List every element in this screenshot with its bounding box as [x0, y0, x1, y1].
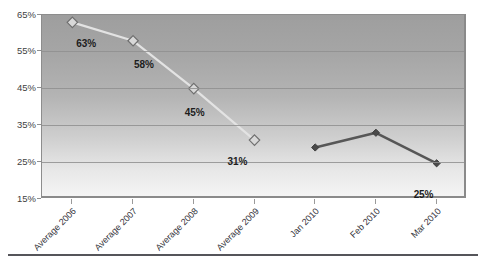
- y-tick-label: 25%: [0, 156, 36, 167]
- data-point-label: 45%: [185, 107, 205, 118]
- series-line: [72, 22, 254, 140]
- chart-container: 65% 55% 45% 35% 25% 15% Average 2006Aver…: [0, 0, 485, 264]
- y-tick-label: 65%: [0, 9, 36, 20]
- y-tick-label: 55%: [0, 45, 36, 56]
- y-tick-label: 35%: [0, 119, 36, 130]
- y-tick-label: 45%: [0, 82, 36, 93]
- gridline-35: [42, 125, 464, 126]
- y-tick-label: 15%: [0, 193, 36, 204]
- plot-area: [41, 14, 466, 198]
- gridline-25: [42, 162, 464, 163]
- data-point-label: 31%: [228, 156, 248, 167]
- x-tick-mark: [436, 199, 437, 204]
- data-point-label: 58%: [134, 59, 154, 70]
- gridline-55: [42, 51, 464, 52]
- x-tick-mark: [193, 199, 194, 204]
- bottom-rule-divider: [8, 254, 478, 256]
- data-point-marker: [312, 144, 319, 151]
- series-layer: [42, 15, 466, 198]
- x-tick-mark: [254, 199, 255, 204]
- x-tick-mark: [375, 199, 376, 204]
- data-point-label: 25%: [414, 189, 434, 200]
- y-tick-mark: [37, 198, 41, 199]
- x-tick-mark: [132, 199, 133, 204]
- x-tick-mark: [314, 199, 315, 204]
- series-line: [315, 133, 436, 164]
- data-point-label: 63%: [76, 38, 96, 49]
- x-tick-mark: [71, 199, 72, 204]
- gridline-45: [42, 88, 464, 89]
- data-point-marker: [67, 17, 77, 27]
